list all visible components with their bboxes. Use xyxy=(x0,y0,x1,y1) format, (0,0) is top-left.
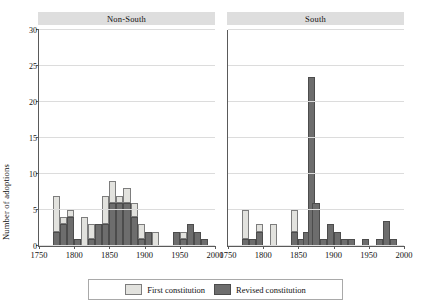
plot-area-south: 175018001850190019502000 xyxy=(227,30,404,247)
bar-segment-first xyxy=(152,232,159,246)
bar xyxy=(242,210,249,246)
bar-segment-first xyxy=(88,224,95,238)
panel-strip-south: South xyxy=(227,12,404,25)
bar-segment-first xyxy=(291,210,298,232)
bar-segment-first xyxy=(67,210,74,217)
bar-segment-first xyxy=(116,196,123,203)
x-tick-mark xyxy=(369,246,370,249)
legend-item-first-constitution: First constitution xyxy=(125,284,205,295)
gridline xyxy=(39,209,215,210)
bar xyxy=(88,224,95,246)
bar xyxy=(53,196,60,246)
bar-segment-revised xyxy=(194,232,201,246)
bar-segment-revised xyxy=(60,224,67,246)
x-tick-label: 1950 xyxy=(171,250,188,260)
bar-segment-revised xyxy=(95,224,102,246)
gridline xyxy=(228,245,404,246)
panel-non-south: Non-South 175018001850190019502000 05101… xyxy=(38,12,215,247)
bar-segment-first xyxy=(81,217,88,246)
bar xyxy=(102,196,109,246)
bar-segment-first xyxy=(180,232,187,239)
y-tick-label: 25 xyxy=(29,62,37,71)
bar-segment-revised xyxy=(131,217,138,246)
bar-segment-first xyxy=(138,224,145,238)
y-tick-label: 30 xyxy=(29,26,37,35)
plot-area-non-south: 175018001850190019502000 051015202530 xyxy=(38,30,215,247)
y-axis-label: Number of adoptions xyxy=(1,112,15,292)
gridline xyxy=(39,29,215,30)
bar xyxy=(116,196,123,246)
x-axis-south: 175018001850190019502000 xyxy=(228,246,404,264)
x-tick-label: 1750 xyxy=(220,250,237,260)
bar xyxy=(327,224,334,246)
x-tick-mark xyxy=(263,246,264,249)
chart-legend: First constitution Revised constitution xyxy=(88,279,343,300)
x-tick-label: 1750 xyxy=(31,250,48,260)
panel-strip-non-south: Non-South xyxy=(38,12,215,25)
x-tick-label: 1850 xyxy=(290,250,307,260)
chart-figure: Number of adoptions Non-South 1750180018… xyxy=(0,0,426,306)
bar-segment-first xyxy=(53,196,60,232)
panel-south: South 175018001850190019502000 xyxy=(227,12,404,247)
y-tick-label: 5 xyxy=(33,206,37,215)
panel-title-south: South xyxy=(305,14,326,24)
gridline xyxy=(39,245,215,246)
bar xyxy=(187,224,194,246)
bar-segment-first xyxy=(60,217,67,224)
y-tick-label: 20 xyxy=(29,98,37,107)
bar-segment-revised xyxy=(327,224,334,246)
bar xyxy=(194,232,201,246)
x-tick-label: 1850 xyxy=(101,250,118,260)
x-tick-mark xyxy=(228,246,229,249)
gridline xyxy=(39,173,215,174)
bar-segment-first xyxy=(102,196,109,225)
bar-segment-revised xyxy=(173,232,180,246)
gridline xyxy=(228,137,404,138)
x-tick-label: 1800 xyxy=(66,250,83,260)
y-tick-label: 0 xyxy=(33,242,37,251)
legend-label-first: First constitution xyxy=(147,285,205,295)
x-tick-mark xyxy=(334,246,335,249)
bar-segment-revised xyxy=(67,217,74,246)
x-tick-mark xyxy=(74,246,75,249)
bar xyxy=(256,224,263,246)
gridline xyxy=(228,173,404,174)
gridline xyxy=(228,101,404,102)
bar xyxy=(67,210,74,246)
x-tick-label: 1800 xyxy=(255,250,272,260)
bar xyxy=(383,221,390,246)
legend-swatch-revised-icon xyxy=(214,284,231,295)
x-tick-mark xyxy=(145,246,146,249)
bar xyxy=(81,217,88,246)
x-tick-mark xyxy=(215,246,216,249)
bar-segment-first xyxy=(131,203,138,217)
bar-segment-revised xyxy=(53,232,60,246)
bar-segment-revised xyxy=(334,232,341,246)
x-tick-mark xyxy=(39,246,40,249)
bar xyxy=(138,224,145,246)
x-tick-label: 1900 xyxy=(136,250,153,260)
x-tick-label: 1950 xyxy=(360,250,377,260)
bar xyxy=(180,232,187,246)
bar xyxy=(145,232,152,246)
gridline xyxy=(228,209,404,210)
bar-segment-first xyxy=(256,224,263,231)
bar xyxy=(60,217,67,246)
bar-segment-revised xyxy=(187,224,194,246)
bar-segment-revised xyxy=(145,232,152,246)
y-tick-label: 15 xyxy=(29,134,37,143)
gridline xyxy=(39,65,215,66)
bar xyxy=(123,188,130,246)
x-tick-mark xyxy=(298,246,299,249)
gridline xyxy=(39,137,215,138)
bar xyxy=(270,224,277,246)
bars-non-south xyxy=(39,30,215,246)
x-tick-mark xyxy=(404,246,405,249)
bar xyxy=(291,210,298,246)
bar-segment-first xyxy=(270,224,277,246)
x-tick-label: 2000 xyxy=(396,250,413,260)
bar xyxy=(173,232,180,246)
bar xyxy=(109,181,116,246)
gridline xyxy=(39,101,215,102)
bar-segment-first xyxy=(109,181,116,203)
